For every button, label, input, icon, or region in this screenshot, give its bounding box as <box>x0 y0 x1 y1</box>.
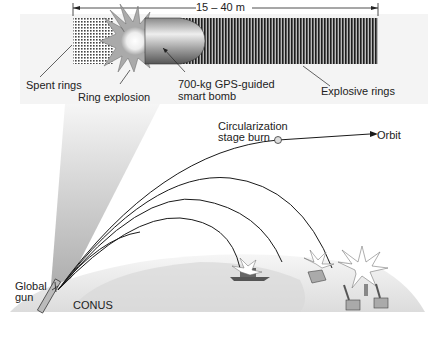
dimension-label: 15 – 40 m <box>196 2 245 13</box>
smart-bomb-label-2: smart bomb <box>178 91 236 102</box>
global-gun-label-2: gun <box>15 292 33 303</box>
smart-bomb <box>145 18 205 64</box>
global-gun-diagram <box>0 0 428 339</box>
smart-bomb-label-1: 700-kg GPS-guided <box>178 79 275 90</box>
circularization-label-2: stage burn <box>218 132 270 143</box>
circularization-point <box>275 137 282 144</box>
conus-label: CONUS <box>73 300 113 311</box>
explosive-rings-label: Explosive rings <box>321 86 395 97</box>
ring-explosion-label: Ring explosion <box>78 92 150 103</box>
orbit-label: Orbit <box>377 130 401 141</box>
spent-rings-label: Spent rings <box>26 80 82 91</box>
